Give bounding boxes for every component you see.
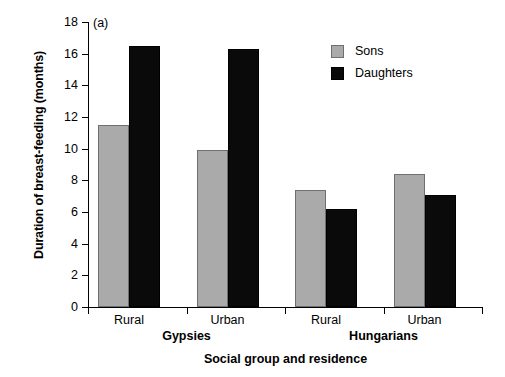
y-tick-label: 6 (52, 206, 78, 218)
y-tick-label-wrap: 6 (52, 206, 78, 218)
y-tick-label-wrap: 8 (52, 174, 78, 186)
x-category-label: Urban (183, 313, 273, 328)
y-tick-label: 10 (52, 143, 78, 155)
legend-swatch-daughters (331, 67, 344, 80)
bar-sons (98, 125, 129, 307)
y-tick-label: 12 (52, 111, 78, 123)
y-tick-label-wrap: 14 (52, 79, 78, 91)
y-tick-label: 0 (52, 301, 78, 313)
bar-sons (394, 174, 425, 307)
y-tick-label: 4 (52, 238, 78, 250)
y-tick-label-wrap: 4 (52, 238, 78, 250)
y-tick-label: 8 (52, 174, 78, 186)
y-tick-label: 18 (52, 16, 78, 28)
x-category-label: Urban (380, 313, 470, 328)
x-group-label: Hungarians (324, 329, 444, 344)
x-tick-mark (482, 308, 483, 314)
y-tick-label-wrap: 18 (52, 16, 78, 28)
x-category-label: Rural (281, 313, 371, 328)
chart-figure: Duration of breast-feeding (months) (a) … (0, 0, 505, 377)
y-tick-label: 14 (52, 79, 78, 91)
x-category-label: Rural (84, 313, 174, 328)
y-axis-title: Duration of breast-feeding (months) (26, 0, 52, 310)
bar-daughters (326, 209, 357, 307)
y-tick-label-wrap: 0 (52, 301, 78, 313)
legend-label: Sons (355, 42, 384, 61)
x-group-label: Gypsies (127, 329, 247, 344)
y-tick-label: 16 (52, 48, 78, 60)
plot-area (88, 22, 482, 307)
y-tick-label: 2 (52, 269, 78, 281)
y-tick-label-wrap: 2 (52, 269, 78, 281)
bar-sons (295, 190, 326, 307)
bar-sons (197, 150, 228, 307)
legend-label: Daughters (355, 64, 413, 83)
bar-daughters (425, 195, 456, 307)
y-tick-label-wrap: 16 (52, 48, 78, 60)
bar-daughters (228, 49, 259, 307)
y-tick-label-wrap: 12 (52, 111, 78, 123)
y-tick-label-wrap: 10 (52, 143, 78, 155)
x-axis-title: Social group and residence (88, 352, 483, 367)
legend-swatch-sons (331, 45, 344, 58)
bar-daughters (129, 46, 160, 307)
